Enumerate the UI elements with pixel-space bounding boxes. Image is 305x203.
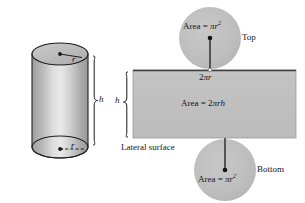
top-circle-area-exponent: 2	[218, 20, 221, 26]
rectangle-height-brace	[123, 72, 128, 137]
bottom-circle-area-label: Area = πr2	[198, 175, 236, 184]
bottom-circle-center-dot	[223, 168, 228, 173]
cylinder-surface-area-figure: r r h h Area = πr2 Top 2πr Area = 2πrh L…	[0, 0, 305, 203]
bottom-circle-caption: Bottom	[257, 165, 284, 174]
cylinder-body	[32, 54, 88, 158]
top-circle-caption: Top	[242, 33, 256, 42]
lateral-surface-caption: Lateral surface	[121, 143, 175, 152]
bottom-circle-area-exponent: 2	[233, 173, 236, 179]
cylinder-top-radius-label: r	[72, 55, 76, 64]
rectangle-width-var: r	[208, 72, 212, 82]
cylinder-bottom-radius-label: r	[71, 141, 75, 150]
cylinder-top-center-dot	[58, 52, 62, 56]
cylinder-height-label: h	[99, 95, 104, 104]
cylinder-graphic	[32, 43, 98, 158]
lateral-area-vars: rh	[217, 98, 225, 108]
rectangle-width-label: 2πr	[199, 73, 212, 82]
top-circle-area-label: Area = πr2	[183, 22, 221, 31]
rectangle-height-label: h	[115, 96, 120, 105]
lateral-area-label: Area = 2πrh	[181, 99, 225, 108]
bottom-circle-area-prefix: Area =	[198, 174, 225, 184]
top-circle-area-prefix: Area =	[183, 21, 210, 31]
cylinder-height-brace	[93, 56, 98, 145]
lateral-area-prefix: Area = 2	[181, 98, 213, 108]
top-circle-center-dot	[208, 36, 213, 41]
